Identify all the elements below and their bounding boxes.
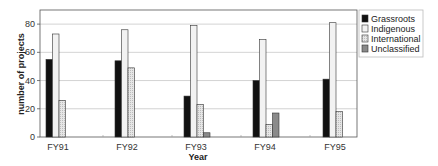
x-axis-title: Year [188, 152, 208, 162]
bar-grassroots-fy95 [323, 79, 330, 137]
bar-international-fy94 [266, 124, 273, 137]
x-tick-label: FY92 [116, 142, 138, 152]
legend-label-indigenous: Indigenous [371, 24, 416, 34]
y-tick-label: 60 [25, 47, 35, 57]
legend-swatch-indigenous [362, 25, 368, 32]
bar-international-fy92 [128, 68, 135, 137]
bar-grassroots-fy92 [115, 61, 122, 137]
legend-label-grassroots: Grassroots [371, 14, 416, 24]
bar-grassroots-fy91 [46, 59, 53, 137]
legend-swatch-international [362, 35, 368, 42]
bars [46, 23, 343, 137]
legend-label-unclassified: Unclassified [371, 44, 420, 54]
y-axis-title: number of projects [16, 33, 26, 115]
bar-unclassified-fy94 [273, 113, 280, 137]
x-axis-ticks: FY91FY92FY93FY94FY95 [47, 135, 346, 152]
bar-international-fy95 [336, 112, 343, 137]
bar-indigenous-fy94 [260, 40, 267, 137]
x-tick-label: FY94 [254, 142, 276, 152]
bar-grassroots-fy93 [184, 96, 191, 137]
bar-international-fy93 [197, 105, 204, 137]
x-tick-label: FY93 [185, 142, 207, 152]
bar-international-fy91 [59, 100, 66, 137]
y-axis-ticks: 020406080 [25, 19, 40, 142]
y-tick-label: 0 [30, 132, 35, 142]
bar-indigenous-fy92 [122, 30, 129, 137]
bar-indigenous-fy93 [191, 26, 198, 137]
y-tick-label: 20 [25, 104, 35, 114]
y-tick-label: 40 [25, 76, 35, 86]
gridlines [40, 24, 357, 109]
legend-swatch-unclassified [362, 45, 368, 52]
x-tick-label: FY95 [324, 142, 346, 152]
legend-label-international: International [371, 34, 421, 44]
bar-grassroots-fy94 [253, 81, 260, 137]
x-tick-label: FY91 [47, 142, 69, 152]
y-tick-label: 80 [25, 19, 35, 29]
bar-indigenous-fy95 [330, 23, 337, 137]
legend-swatch-grassroots [362, 15, 368, 22]
bar-unclassified-fy93 [204, 133, 211, 137]
bar-indigenous-fy91 [53, 34, 60, 137]
legend: GrassrootsIndigenousInternationalUnclass… [359, 10, 423, 57]
bar-chart: 020406080 FY91FY92FY93FY94FY95 number of… [0, 0, 438, 166]
